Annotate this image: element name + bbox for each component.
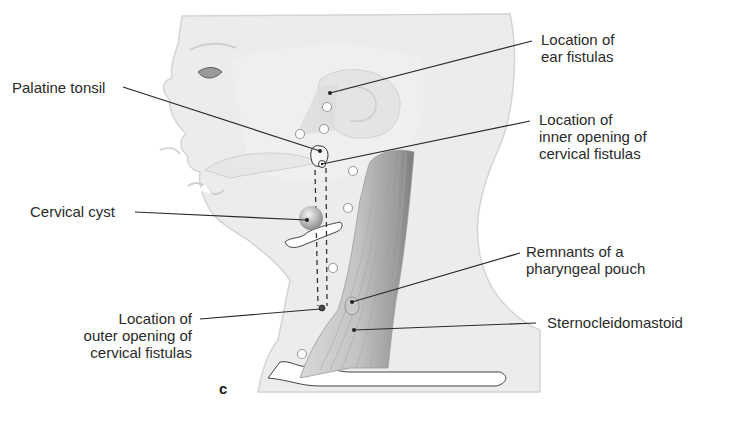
label-palatine-tonsil: Palatine tonsil [12,79,105,96]
cervical-cyst-shape [299,206,323,230]
label-inner-opening: Location of inner opening of cervical fi… [539,111,647,162]
label-sternocleidomastoid: Sternocleidomastoid [547,314,683,331]
pharyngeal-pouch-remnant [345,297,359,315]
panel-letter: c [219,380,227,397]
anatomy-figure: Location of ear fistulas Palatine tonsil… [0,0,730,424]
label-outer-opening: Location of outer opening of cervical fi… [60,310,192,361]
label-pharyngeal-pouch: Remnants of a pharyngeal pouch [526,243,645,277]
label-cervical-cyst: Cervical cyst [30,203,115,220]
label-ear-fistulas: Location of ear fistulas [541,31,614,65]
